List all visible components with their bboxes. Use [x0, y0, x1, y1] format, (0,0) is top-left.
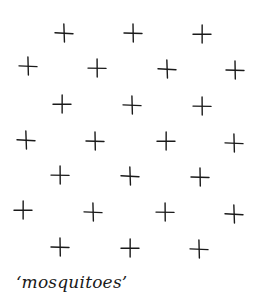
- cross-mark-icon: [14, 201, 32, 219]
- cross-mark-icon: [55, 24, 73, 42]
- cross-mark-icon: [225, 205, 243, 223]
- cross-mark-icon: [123, 96, 141, 114]
- cross-mark-icon: [225, 134, 243, 152]
- cross-marks-layer: [0, 0, 269, 299]
- cross-mark-icon: [190, 240, 208, 258]
- cross-mark-icon: [88, 59, 106, 77]
- cross-mark-icon: [193, 25, 211, 43]
- cross-mark-icon: [156, 203, 174, 221]
- figure-caption: ‘mosquitoes’: [16, 272, 127, 292]
- cross-mark-icon: [53, 95, 71, 113]
- cross-mark-icon: [121, 239, 139, 257]
- cross-mark-icon: [51, 166, 69, 184]
- cross-mark-icon: [86, 132, 104, 150]
- cross-mark-icon: [226, 61, 244, 79]
- cross-mark-icon: [191, 168, 209, 186]
- cross-mark-icon: [121, 167, 139, 185]
- cross-mark-icon: [84, 203, 102, 221]
- cross-mark-icon: [157, 132, 175, 150]
- cross-mark-icon: [17, 131, 35, 149]
- cross-mark-icon: [193, 97, 211, 115]
- cross-mark-icon: [19, 57, 37, 75]
- cross-mark-icon: [158, 60, 176, 78]
- cross-mark-icon: [51, 238, 69, 256]
- mosquito-pattern-figure: [0, 0, 269, 299]
- cross-mark-icon: [124, 24, 142, 42]
